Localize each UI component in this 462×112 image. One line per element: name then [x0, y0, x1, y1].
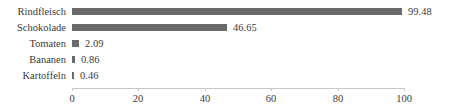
value-label-rindfleisch: 99.48 [408, 6, 432, 17]
category-label-text: Bananen [0, 55, 66, 65]
x-axis-line [72, 88, 404, 89]
category-label-text: Schokolade [0, 23, 66, 33]
x-axis-tick [338, 88, 339, 91]
chart-row: Schokolade 46.65 [0, 20, 462, 36]
category-label-tomaten: Tomaten [0, 36, 66, 52]
category-label-text: Tomaten [0, 39, 66, 49]
x-axis-tick-label: 80 [333, 93, 344, 105]
bar-bananen [72, 56, 75, 63]
value-label-tomaten: 2.09 [85, 38, 103, 49]
value-label-bananen: 0.86 [81, 54, 99, 65]
bar-kartoffeln [72, 72, 74, 79]
category-label-rindfleisch: Rindfleisch [0, 4, 66, 20]
x-axis-tick-label: 20 [133, 93, 144, 105]
bar-tomaten [72, 40, 79, 47]
x-axis-tick [271, 88, 272, 91]
value-label-kartoffeln: 0.46 [80, 70, 98, 81]
category-label-schokolade: Schokolade [0, 20, 66, 36]
value-label-schokolade: 46.65 [233, 22, 257, 33]
bar-schokolade [72, 24, 227, 31]
category-label-text: Kartoffeln [0, 71, 66, 81]
x-axis-tick-label: 40 [200, 93, 211, 105]
x-axis-tick-label: 60 [266, 93, 277, 105]
chart-row: Bananen 0.86 [0, 52, 462, 68]
category-label-kartoffeln: Kartoffeln [0, 68, 66, 84]
category-label-bananen: Bananen [0, 52, 66, 68]
x-axis-tick-label: 100 [396, 93, 412, 105]
x-axis-tick [138, 88, 139, 91]
x-axis-tick-label: 0 [69, 93, 74, 105]
chart-row: Rindfleisch 99.48 [0, 4, 462, 20]
x-axis-tick [72, 88, 73, 91]
chart-row: Tomaten 2.09 [0, 36, 462, 52]
category-label-text: Rindfleisch [0, 7, 66, 17]
horizontal-bar-chart: Rindfleisch 99.48 Schokolade 46.65 Tomat… [0, 0, 462, 112]
chart-row: Kartoffeln 0.46 [0, 68, 462, 84]
bar-rindfleisch [72, 8, 402, 15]
x-axis-tick [404, 88, 405, 91]
x-axis-tick [205, 88, 206, 91]
